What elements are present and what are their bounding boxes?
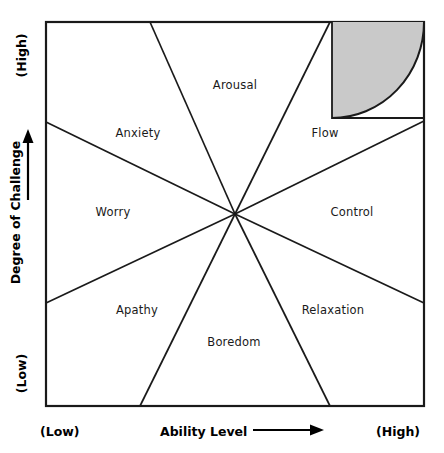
diagram-canvas [0, 0, 444, 453]
region-label-control: Control [331, 205, 374, 219]
region-label-boredom: Boredom [207, 335, 260, 349]
region-label-anxiety: Anxiety [116, 126, 161, 140]
y-axis-arrow [23, 129, 34, 200]
x-axis-high-label: (High) [376, 424, 420, 439]
region-label-flow: Flow [311, 126, 338, 140]
x-axis-arrow [253, 425, 324, 436]
x-axis-title: Ability Level [160, 424, 247, 439]
x-axis-low-label: (Low) [40, 424, 80, 439]
y-axis-title: Degree of Challenge [8, 138, 23, 288]
region-label-worry: Worry [96, 205, 131, 219]
region-label-arousal: Arousal [213, 78, 257, 92]
y-axis-low-label: (Low) [14, 339, 29, 409]
flow-diagram: Arousal Anxiety Worry Apathy Boredom Rel… [0, 0, 444, 453]
region-label-relaxation: Relaxation [302, 303, 365, 317]
region-label-apathy: Apathy [116, 303, 158, 317]
y-axis-high-label: (High) [14, 21, 29, 91]
